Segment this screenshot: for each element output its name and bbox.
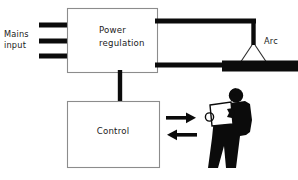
control-label: Control (97, 126, 129, 136)
control-to-operator-arrow (166, 113, 196, 124)
power-to-electrode-wire (155, 19, 256, 45)
power-regulation-label-line1: Power (99, 25, 126, 35)
power-regulation-label-line2: regulation (99, 38, 145, 48)
arc-line-left (240, 45, 252, 63)
mains-input-label-line2: input (4, 40, 27, 50)
arc-label: Arc (264, 36, 278, 46)
mains-input-lines (39, 25, 68, 56)
operator-to-control-arrow (167, 130, 197, 141)
operator-figure (205, 88, 252, 168)
mains-input-label-line1: Mains (4, 29, 29, 39)
arrow-right-shaft (166, 116, 188, 120)
arc-line-right (255, 45, 267, 63)
arrow-left-shaft (175, 133, 197, 137)
arc-shape (240, 45, 267, 63)
welding-system-diagram: Mains input Power regulation Control Arc (0, 0, 298, 180)
workpiece-bar (222, 61, 298, 72)
arrow-right-head (186, 113, 196, 124)
diagram-canvas: Mains input Power regulation Control Arc (0, 0, 298, 180)
arrow-left-head (167, 130, 177, 141)
